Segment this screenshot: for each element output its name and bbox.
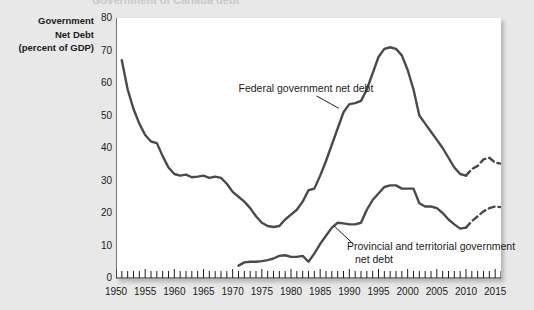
annotation-provincial-line2: net debt <box>347 253 515 266</box>
annotation-provincial: Provincial and territorial government ne… <box>347 240 515 266</box>
annotation-federal: Federal government net debt <box>239 82 374 95</box>
y-tick-label-70: 70 <box>92 46 112 56</box>
y-axis-title: Government Net Debt (percent of GDP) <box>0 14 94 55</box>
leader-line-federal <box>317 96 339 108</box>
y-tick-label-80: 80 <box>92 13 112 23</box>
annotation-provincial-line1: Provincial and territorial government <box>347 240 515 253</box>
series-line-0 <box>122 47 466 227</box>
x-tick-label-2015: 2015 <box>475 287 515 297</box>
y-axis-title-line2: Net Debt <box>0 28 94 42</box>
series-line-3 <box>466 207 501 228</box>
cropped-title-text: Government of Canada debt <box>92 0 239 6</box>
y-tick-label-10: 10 <box>92 241 112 251</box>
y-axis-title-line3: (percent of GDP) <box>0 41 94 55</box>
y-axis-title-line1: Government <box>0 14 94 28</box>
y-tick-label-50: 50 <box>92 111 112 121</box>
y-tick-label-20: 20 <box>92 208 112 218</box>
annotation-federal-text: Federal government net debt <box>239 82 374 94</box>
y-tick-label-0: 0 <box>92 273 112 283</box>
y-tick-label-40: 40 <box>92 143 112 153</box>
cropped-title-remnant: Government of Canada debt <box>0 0 534 7</box>
chart-figure: Government of Canada debt Government Net… <box>0 0 534 310</box>
y-tick-label-30: 30 <box>92 176 112 186</box>
series-line-1 <box>466 158 501 176</box>
y-tick-label-60: 60 <box>92 78 112 88</box>
